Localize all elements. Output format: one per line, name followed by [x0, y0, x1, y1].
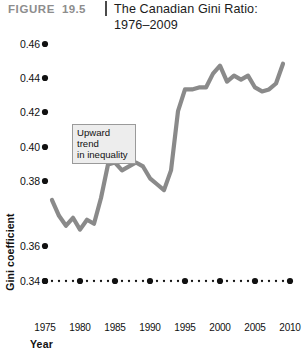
figure-label: FIGURE: [8, 3, 55, 15]
x-tick-label-1975: 1975: [28, 322, 62, 333]
y-tick-label-040: 0.40: [6, 141, 40, 153]
y-tick-label-046: 0.46: [6, 38, 40, 50]
header-divider: [105, 1, 107, 16]
figure-title-line2: 1976–2009: [114, 17, 306, 33]
figure-title: The Canadian Gini Ratio: 1976–2009: [114, 1, 306, 33]
y-tick-label-042: 0.42: [6, 106, 40, 118]
figure-title-line1: The Canadian Gini Ratio:: [114, 2, 258, 16]
y-tick-dot-044: [42, 75, 48, 81]
x-tick-label-2010: 2010: [273, 322, 307, 333]
x-tick-dot-2000: [217, 278, 223, 284]
x-tick-label-1985: 1985: [98, 322, 132, 333]
annotation-line1: Upward trend: [77, 127, 110, 149]
y-tick-label-038: 0.38: [6, 175, 40, 187]
x-axis-baseline: [51, 280, 284, 282]
y-axis-title: Gini coefficient: [4, 204, 16, 300]
y-tick-dot-038: [42, 178, 48, 184]
y-tick-label-044: 0.44: [6, 72, 40, 84]
figure-header: FIGURE 19.5 The Canadian Gini Ratio: 197…: [0, 0, 307, 38]
x-tick-label-1995: 1995: [168, 322, 202, 333]
x-tick-dot-1980: [77, 278, 83, 284]
x-tick-dot-2005: [252, 278, 258, 284]
x-axis-title: Year: [30, 338, 53, 350]
chart-canvas: [0, 36, 307, 324]
chart-plot-area: 0.46 0.44 0.42 0.40 0.38 0.36 0.34 1975 …: [0, 36, 307, 324]
x-tick-label-1990: 1990: [133, 322, 167, 333]
x-tick-dot-1985: [112, 278, 118, 284]
x-tick-label-2000: 2000: [203, 322, 237, 333]
y-tick-dot-042: [42, 109, 48, 115]
y-axis-tick-dots: [42, 41, 48, 284]
x-tick-dot-1995: [182, 278, 188, 284]
annotation-line2: in inequality: [77, 149, 131, 160]
x-axis-tick-dots: [42, 278, 293, 284]
x-tick-label-1980: 1980: [63, 322, 97, 333]
y-tick-dot-046: [42, 41, 48, 47]
figure-number: 19.5: [62, 3, 86, 15]
x-tick-dot-2010: [287, 278, 293, 284]
y-tick-dot-040: [42, 144, 48, 150]
y-tick-dot-036: [42, 243, 48, 249]
annotation-callout: Upward trend in inequality: [72, 124, 136, 164]
x-tick-label-2005: 2005: [238, 322, 272, 333]
x-tick-dot-1990: [147, 278, 153, 284]
x-tick-dot-1975: [42, 278, 48, 284]
